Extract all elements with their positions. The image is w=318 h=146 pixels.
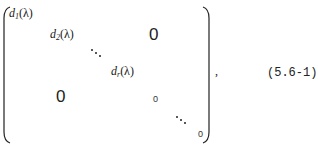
lower-zero-block: 0 — [56, 87, 65, 107]
upper-zero-block: 0 — [149, 25, 158, 45]
entry-d1: d1(λ) — [9, 6, 33, 21]
trailing-comma: , — [215, 64, 218, 79]
diagonal-dots-lower — [175, 115, 187, 125]
left-bracket — [2, 6, 12, 144]
entry-dr: dr(λ) — [111, 64, 134, 79]
diagonal-dots — [90, 48, 102, 58]
equation-number: (5.6-1) — [267, 66, 317, 80]
right-bracket — [201, 6, 211, 144]
entry-d2: d2(λ) — [50, 27, 74, 42]
last-diagonal-zero: 0 — [198, 129, 203, 139]
inner-zero: 0 — [153, 94, 158, 104]
